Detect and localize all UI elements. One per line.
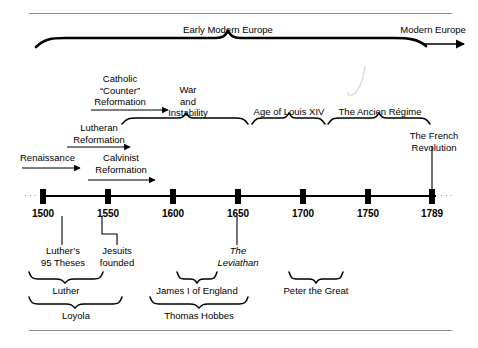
bottom-divider-rule bbox=[29, 330, 452, 331]
tick-1600 bbox=[170, 189, 176, 204]
tick-1789 bbox=[429, 189, 435, 204]
tick-label-1700: 1700 bbox=[292, 208, 314, 219]
label-thomas-hobbes: Thomas Hobbes bbox=[164, 310, 234, 321]
leader-jesuits-founded bbox=[102, 216, 117, 245]
label-catholic-counter-reformation: Catholic “Counter” Reformation bbox=[94, 73, 146, 108]
label-ancien-regime: The Ancien Régime bbox=[339, 106, 422, 117]
tick-1500 bbox=[40, 189, 46, 204]
label-calvinist-reformation: Calvinist Reformation bbox=[95, 152, 147, 175]
brace-james-i bbox=[177, 272, 217, 283]
label-the-leviathan: The Leviathan bbox=[217, 245, 258, 268]
tick-label-1789: 1789 bbox=[421, 208, 443, 219]
label-renaissance: Renaissance bbox=[20, 152, 75, 163]
label-lutheran-reformation-line1: Lutheran bbox=[73, 122, 125, 134]
label-peter-the-great: Peter the Great bbox=[284, 285, 349, 296]
label-catholic-counter-reformation-line2: “Counter” bbox=[94, 85, 146, 97]
label-age-of-louis-xiv: Age of Louis XIV bbox=[254, 106, 325, 117]
top-divider-rule bbox=[29, 13, 452, 14]
label-luther: Luther bbox=[53, 285, 80, 296]
label-the-leviathan-line1: The bbox=[217, 245, 258, 257]
tick-1700 bbox=[300, 189, 306, 204]
label-war-and-instability-line1: War bbox=[168, 84, 208, 96]
axis-trailing-ellipsis: · · · bbox=[440, 190, 452, 201]
tick-1550 bbox=[105, 189, 111, 204]
label-lutheran-reformation-line2: Reformation bbox=[73, 134, 125, 146]
brace-thomas-hobbes bbox=[150, 297, 248, 308]
label-jesuits-founded: Jesuits founded bbox=[100, 245, 134, 268]
tick-label-1750: 1750 bbox=[357, 208, 379, 219]
tick-label-1550: 1550 bbox=[97, 208, 119, 219]
label-war-and-instability: War and Instability bbox=[168, 84, 208, 119]
label-calvinist-reformation-line1: Calvinist bbox=[95, 152, 147, 164]
label-lutheran-reformation: Lutheran Reformation bbox=[73, 122, 125, 145]
pen-stroke-artifact bbox=[348, 66, 365, 95]
label-luthers-95-theses-line2: 95 Theses bbox=[41, 257, 85, 269]
tick-label-1650: 1650 bbox=[227, 208, 249, 219]
label-calvinist-reformation-line2: Reformation bbox=[95, 164, 147, 176]
label-luthers-95-theses-line1: Luther’s bbox=[41, 245, 85, 257]
label-modern-europe: Modern Europe bbox=[400, 24, 465, 35]
brace-loyola bbox=[29, 297, 122, 308]
label-catholic-counter-reformation-line3: Reformation bbox=[94, 96, 146, 108]
label-catholic-counter-reformation-line1: Catholic bbox=[94, 73, 146, 85]
label-jesuits-founded-line1: Jesuits bbox=[100, 245, 134, 257]
label-french-revolution-line1: The French bbox=[410, 130, 459, 142]
tick-label-1500: 1500 bbox=[32, 208, 54, 219]
tick-label-1600: 1600 bbox=[162, 208, 184, 219]
brace-luther bbox=[29, 272, 103, 283]
axis-leading-ellipsis: · · · bbox=[24, 190, 36, 201]
label-james-i-of-england: James I of England bbox=[156, 285, 237, 296]
label-war-and-instability-line2: and bbox=[168, 96, 208, 108]
label-the-leviathan-line2: Leviathan bbox=[217, 257, 258, 269]
label-jesuits-founded-line2: founded bbox=[100, 257, 134, 269]
label-french-revolution-line2: Revolution bbox=[410, 142, 459, 154]
tick-1750 bbox=[365, 189, 371, 204]
label-loyola: Loyola bbox=[62, 310, 90, 321]
label-war-and-instability-line3: Instability bbox=[168, 107, 208, 119]
timeline-figure: Early Modern Europe Modern Europe Cathol… bbox=[0, 0, 478, 348]
label-french-revolution: The French Revolution bbox=[410, 130, 459, 153]
label-early-modern-europe: Early Modern Europe bbox=[183, 24, 273, 35]
timeline-ticks bbox=[40, 189, 435, 204]
brace-peter-the-great bbox=[289, 272, 343, 283]
tick-1650 bbox=[235, 189, 241, 204]
label-luthers-95-theses: Luther’s 95 Theses bbox=[41, 245, 85, 268]
